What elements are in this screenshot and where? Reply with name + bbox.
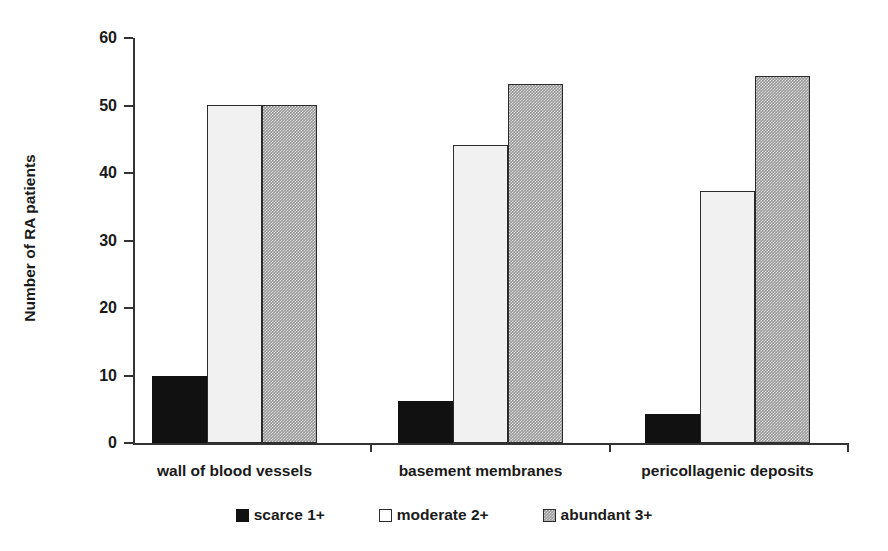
y-axis-tick-mark (124, 172, 133, 174)
bar-scarce (152, 376, 207, 444)
bar-abundant (755, 76, 810, 443)
legend-item-label: scarce 1+ (254, 506, 325, 524)
y-axis-tick-mark (124, 105, 133, 107)
bar-abundant (508, 84, 563, 443)
legend-item-label: abundant 3+ (561, 506, 653, 524)
y-axis-tick-label: 30 (99, 232, 117, 250)
x-axis-category-label: basement membranes (399, 462, 563, 480)
y-axis-tick-mark (124, 442, 133, 444)
y-axis-tick-label: 60 (99, 29, 117, 47)
x-axis-category-label: wall of blood vessels (157, 462, 312, 480)
y-axis-title-text: Number of RA patients (21, 154, 39, 321)
x-axis-tick-mark (609, 443, 611, 452)
y-axis-tick-mark (124, 37, 133, 39)
bar-moderate (207, 105, 262, 443)
y-axis-tick-label: 10 (99, 367, 117, 385)
plot-area: 0102030405060 (133, 38, 848, 443)
y-axis-line (133, 38, 135, 443)
legend-item-label: moderate 2+ (397, 506, 489, 524)
y-axis-tick: 30 (124, 240, 133, 242)
y-axis-tick: 20 (124, 307, 133, 309)
bar-scarce (645, 414, 700, 443)
y-axis-title: Number of RA patients (12, 28, 48, 448)
legend-item: scarce 1+ (236, 506, 325, 524)
chart-legend: scarce 1+moderate 2+abundant 3+ (0, 506, 888, 524)
x-axis-tick-mark (847, 443, 849, 452)
x-axis-category-label: pericollagenic deposits (641, 462, 813, 480)
bar-chart-figure: Number of RA patients 0102030405060 wall… (0, 0, 888, 551)
bar-moderate (453, 145, 508, 443)
y-axis-tick-label: 50 (99, 97, 117, 115)
y-axis-tick: 10 (124, 375, 133, 377)
bar-scarce (398, 401, 453, 443)
bar-abundant (262, 105, 317, 443)
x-axis-line (133, 443, 848, 445)
y-axis-tick: 40 (124, 172, 133, 174)
bar-moderate (700, 191, 755, 443)
white-square-swatch (379, 509, 392, 522)
gray-hatched-square-swatch (543, 509, 556, 522)
black-square-swatch (236, 509, 249, 522)
legend-item: abundant 3+ (543, 506, 653, 524)
y-axis-tick: 0 (124, 442, 133, 444)
y-axis-tick-mark (124, 240, 133, 242)
y-axis-tick-mark (124, 307, 133, 309)
x-axis-tick-mark (370, 443, 372, 452)
y-axis-tick: 60 (124, 37, 133, 39)
y-axis-tick-mark (124, 375, 133, 377)
y-axis-tick: 50 (124, 105, 133, 107)
y-axis-tick-label: 0 (108, 434, 117, 452)
legend-item: moderate 2+ (379, 506, 489, 524)
y-axis-tick-label: 40 (99, 164, 117, 182)
y-axis-tick-label: 20 (99, 299, 117, 317)
